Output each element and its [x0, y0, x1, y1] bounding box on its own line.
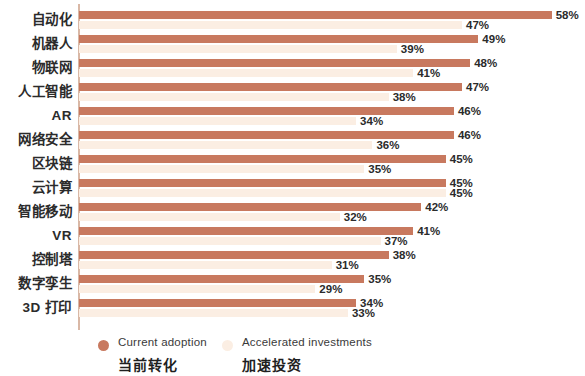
- bar-accelerated: [79, 117, 356, 125]
- chart-category-row: 控制塔38%31%: [0, 248, 585, 272]
- bar-current: [79, 299, 356, 307]
- bar-chart: 自动化58%47%机器人49%39%物联网48%41%人工智能47%38%AR4…: [0, 0, 585, 376]
- bar-value-label: 39%: [397, 41, 424, 57]
- bar-value-label: 38%: [389, 89, 416, 105]
- category-bars: 34%33%: [79, 296, 585, 320]
- legend-label-zh: 当前转化: [118, 354, 178, 374]
- bar-current: [79, 179, 446, 187]
- bar-accelerated: [79, 21, 462, 29]
- bar-value-label: 34%: [356, 113, 383, 129]
- bar-accelerated: [79, 69, 413, 77]
- legend-label-en: Accelerated investments: [242, 336, 372, 348]
- bar-value-label: 41%: [413, 65, 440, 81]
- plot-area: 自动化58%47%机器人49%39%物联网48%41%人工智能47%38%AR4…: [0, 0, 585, 332]
- bar-current: [79, 107, 454, 115]
- circle-marker-current: [98, 340, 109, 351]
- bar-value-label: 32%: [340, 209, 367, 225]
- bar-accelerated: [79, 285, 315, 293]
- category-label: VR: [0, 224, 72, 248]
- category-bars: 45%35%: [79, 152, 585, 176]
- category-label: 区块链: [0, 152, 72, 176]
- chart-category-row: 云计算45%45%: [0, 176, 585, 200]
- category-bars: 58%47%: [79, 8, 585, 32]
- category-label: 网络安全: [0, 128, 72, 152]
- chart-legend: Current adoption当前转化Accelerated investme…: [0, 334, 585, 376]
- legend-label-zh: 加速投资: [242, 354, 302, 374]
- chart-category-row: 物联网48%41%: [0, 56, 585, 80]
- chart-category-row: 区块链45%35%: [0, 152, 585, 176]
- chart-category-row: VR41%37%: [0, 224, 585, 248]
- bar-value-label: 29%: [315, 281, 342, 297]
- bar-accelerated: [79, 213, 340, 221]
- bar-value-label: 46%: [454, 103, 481, 119]
- category-label: 自动化: [0, 8, 72, 32]
- category-bars: 45%45%: [79, 176, 585, 200]
- chart-category-row: 智能移动42%32%: [0, 200, 585, 224]
- bar-value-label: 42%: [421, 199, 448, 215]
- bar-current: [79, 227, 413, 235]
- category-bars: 46%36%: [79, 128, 585, 152]
- chart-category-row: 网络安全46%36%: [0, 128, 585, 152]
- category-label: 机器人: [0, 32, 72, 56]
- chart-category-row: AR46%34%: [0, 104, 585, 128]
- bar-accelerated: [79, 45, 397, 53]
- bar-accelerated: [79, 237, 381, 245]
- bar-value-label: 38%: [389, 247, 416, 263]
- chart-category-row: 机器人49%39%: [0, 32, 585, 56]
- category-label: 控制塔: [0, 248, 72, 272]
- bar-current: [79, 203, 421, 211]
- category-bars: 38%31%: [79, 248, 585, 272]
- bar-value-label: 58%: [552, 7, 579, 23]
- bar-value-label: 41%: [413, 223, 440, 239]
- bar-value-label: 45%: [446, 151, 473, 167]
- category-bars: 35%29%: [79, 272, 585, 296]
- chart-category-row: 数字孪生35%29%: [0, 272, 585, 296]
- bar-value-label: 31%: [332, 257, 359, 273]
- bar-value-label: 48%: [470, 55, 497, 71]
- bar-value-label: 35%: [364, 161, 391, 177]
- bar-value-label: 35%: [364, 271, 391, 287]
- bar-accelerated: [79, 261, 332, 269]
- bar-accelerated: [79, 141, 372, 149]
- category-label: 人工智能: [0, 80, 72, 104]
- category-bars: 46%34%: [79, 104, 585, 128]
- category-label: 云计算: [0, 176, 72, 200]
- category-label: 智能移动: [0, 200, 72, 224]
- bar-accelerated: [79, 93, 389, 101]
- category-bars: 48%41%: [79, 56, 585, 80]
- category-label: AR: [0, 104, 72, 128]
- category-label: 3D 打印: [0, 296, 72, 320]
- category-bars: 47%38%: [79, 80, 585, 104]
- bar-value-label: 36%: [372, 137, 399, 153]
- bar-accelerated: [79, 165, 364, 173]
- category-label: 数字孪生: [0, 272, 72, 296]
- bar-current: [79, 59, 470, 67]
- bar-value-label: 46%: [454, 127, 481, 143]
- bar-accelerated: [79, 309, 348, 317]
- chart-category-row: 人工智能47%38%: [0, 80, 585, 104]
- chart-category-row: 3D 打印34%33%: [0, 296, 585, 320]
- bar-accelerated: [79, 189, 446, 197]
- category-bars: 41%37%: [79, 224, 585, 248]
- category-bars: 49%39%: [79, 32, 585, 56]
- category-label: 物联网: [0, 56, 72, 80]
- category-bars: 42%32%: [79, 200, 585, 224]
- bar-value-label: 47%: [462, 79, 489, 95]
- bar-value-label: 49%: [478, 31, 505, 47]
- chart-category-row: 自动化58%47%: [0, 8, 585, 32]
- legend-label-en: Current adoption: [118, 336, 207, 348]
- circle-marker-accelerated: [222, 340, 233, 351]
- bar-value-label: 45%: [446, 185, 473, 201]
- bar-value-label: 33%: [348, 305, 375, 321]
